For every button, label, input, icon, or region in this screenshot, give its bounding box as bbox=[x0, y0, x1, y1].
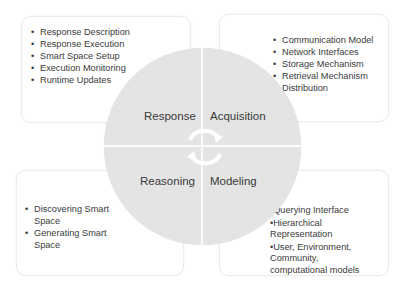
list-item: Discovering Smart Space bbox=[25, 204, 130, 227]
reasoning-list: Discovering Smart Space Generating Smart… bbox=[25, 204, 130, 251]
list-item: •Querying Interface bbox=[270, 205, 370, 217]
list-item: Retrieval Mechanism bbox=[273, 70, 388, 82]
list-item: Storage Mechanism bbox=[273, 58, 388, 70]
list-item: •Hierarchical Representation bbox=[270, 218, 370, 241]
list-item: Distribution bbox=[273, 82, 388, 94]
list-item: Response Execution bbox=[31, 38, 190, 50]
quadrant-label-modeling: Modeling bbox=[210, 175, 257, 187]
list-item: Communication Model bbox=[273, 34, 388, 46]
modeling-list: •Querying Interface •Hierarchical Repres… bbox=[270, 205, 370, 276]
quadrant-label-acquisition: Acquisition bbox=[210, 110, 266, 122]
quadrant-label-reasoning: Reasoning bbox=[140, 175, 195, 187]
list-item: Network Interfaces bbox=[273, 46, 388, 58]
acquisition-list: Communication Model Network Interfaces S… bbox=[273, 34, 388, 94]
quadrant-label-response: Response bbox=[144, 110, 196, 122]
list-item: Response Description bbox=[31, 26, 190, 38]
list-item: Generating Smart Space bbox=[25, 228, 130, 251]
cycle-arrows-icon bbox=[185, 124, 225, 170]
list-item: •User, Environment, Community, computati… bbox=[270, 242, 370, 277]
